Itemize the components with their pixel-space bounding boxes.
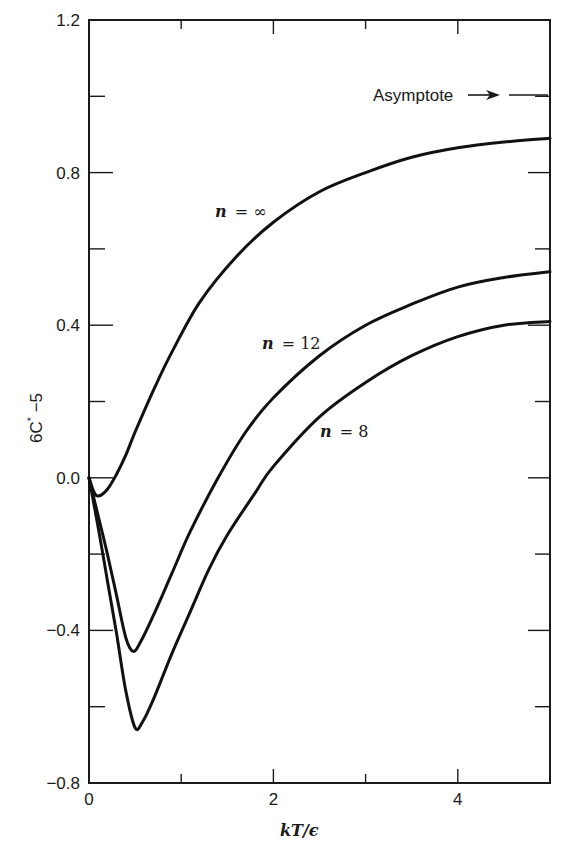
arrow-right-icon	[468, 90, 500, 100]
y-tick-label: −0.8	[46, 774, 80, 793]
asymptote-label: Asymptote	[373, 86, 453, 105]
y-tick-label: 0.0	[56, 469, 80, 488]
curve-label-n-8: n= 8	[320, 422, 368, 441]
plot-frame	[89, 20, 550, 783]
curve-n-infinity	[89, 138, 550, 496]
y-axis-title: 6C* −5	[25, 393, 46, 443]
x-tick-label: 2	[269, 790, 278, 809]
tick-labels: 024−0.8−0.40.00.40.81.2	[46, 11, 462, 809]
x-tick-label: 4	[453, 790, 462, 809]
x-tick-label: 0	[84, 790, 93, 809]
curve-label-n-infinity: n= ∞	[215, 202, 266, 221]
plot-border	[89, 20, 550, 783]
curve-label-n-12: n= 12	[262, 334, 321, 353]
y-tick-label: 0.8	[56, 164, 80, 183]
chart: 024−0.8−0.40.00.40.81.2 n= ∞ n= 12 n= 8 …	[0, 0, 571, 846]
x-axis-title: kT/ϵ	[280, 821, 319, 840]
y-tick-label: −0.4	[46, 621, 80, 640]
y-tick-label: 1.2	[56, 11, 80, 30]
axis-ticks	[89, 20, 550, 783]
y-tick-label: 0.4	[56, 316, 80, 335]
